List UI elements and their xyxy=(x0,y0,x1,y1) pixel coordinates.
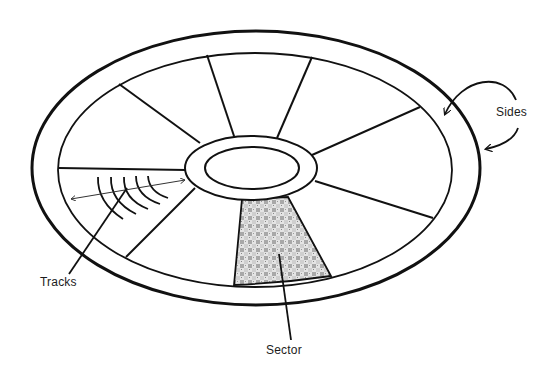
radius-arrow xyxy=(71,180,185,199)
disk-diagram xyxy=(0,0,559,376)
tracks-pointer xyxy=(69,188,127,274)
sector-shape xyxy=(234,197,331,285)
track-arcs xyxy=(98,176,168,219)
sides-label: Sides xyxy=(496,105,527,119)
sector-label: Sector xyxy=(266,343,302,357)
spindle-hole xyxy=(205,147,299,189)
tracks-label: Tracks xyxy=(40,275,77,289)
sides-arrow-bottom xyxy=(486,128,518,149)
